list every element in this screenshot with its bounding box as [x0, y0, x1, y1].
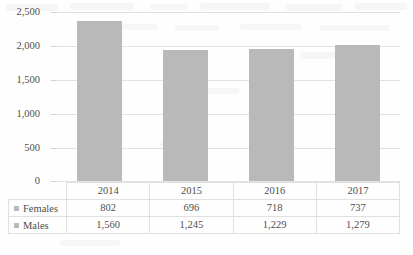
page-bleed-artifact [70, 3, 134, 10]
legend-swatch-icon [14, 223, 19, 228]
year-header-2015: 2015 [150, 183, 233, 200]
cell-males-2016: 1,229 [233, 217, 316, 234]
bar-chart-figure: 2,500 2,000 1,500 1,000 500 0 2014 2015 … [0, 0, 413, 255]
cell-females-2015: 696 [150, 200, 233, 217]
bar-2014 [77, 21, 122, 181]
legend-label-females: Females [23, 202, 58, 213]
y-axis-label-1000: 1,000 [0, 109, 40, 120]
page-bleed-artifact [285, 4, 343, 11]
y-axis-label-2500: 2,500 [0, 7, 40, 18]
year-header-2016: 2016 [233, 183, 316, 200]
cell-males-2015: 1,245 [150, 217, 233, 234]
tick-mark-1000 [51, 114, 57, 115]
cell-males-2017: 1,279 [316, 217, 399, 234]
table-row-females: Females 802 696 718 737 [9, 200, 400, 217]
tick-mark-2500 [51, 12, 57, 13]
tick-mark-2000 [51, 46, 57, 47]
bar-2015 [163, 50, 208, 181]
bar-2016 [249, 49, 294, 181]
year-header-2014: 2014 [67, 183, 150, 200]
legend-item-females: Females [9, 200, 67, 217]
page-bleed-artifact [200, 3, 270, 10]
legend-label-males: Males [23, 219, 49, 230]
y-axis-label-2000: 2,000 [0, 41, 40, 52]
plot-area: 2,500 2,000 1,500 1,000 500 0 [57, 12, 400, 182]
table-corner-cell [9, 183, 67, 200]
year-header-2017: 2017 [316, 183, 399, 200]
legend-item-males: Males [9, 217, 67, 234]
cell-females-2017: 737 [316, 200, 399, 217]
tick-mark-1500 [51, 80, 57, 81]
bar-2017 [335, 45, 380, 181]
page-bleed-artifact [150, 4, 188, 10]
cell-females-2016: 718 [233, 200, 316, 217]
cell-males-2014: 1,560 [67, 217, 150, 234]
legend-swatch-icon [14, 206, 19, 211]
table-row-males: Males 1,560 1,245 1,229 1,279 [9, 217, 400, 234]
y-axis-label-500: 500 [0, 143, 40, 154]
tick-mark-500 [51, 148, 57, 149]
y-axis-label-1500: 1,500 [0, 75, 40, 86]
cell-females-2014: 802 [67, 200, 150, 217]
data-table: 2014 2015 2016 2017 Females 802 696 718 … [8, 182, 400, 234]
table-row-years: 2014 2015 2016 2017 [9, 183, 400, 200]
gridline-2500 [57, 12, 400, 13]
page-bleed-artifact [60, 240, 120, 246]
page-bleed-artifact [355, 3, 407, 10]
